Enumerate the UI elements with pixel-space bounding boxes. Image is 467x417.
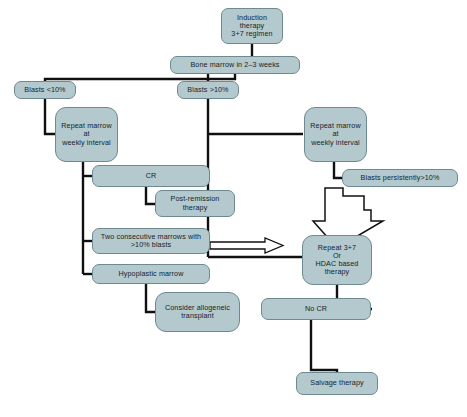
node-no-cr[interactable]: No CR xyxy=(261,298,371,320)
node-bone-marrow[interactable]: Bone marrow in 2–3 weeks xyxy=(170,56,300,74)
node-cr[interactable]: CR xyxy=(92,165,210,187)
node-blasts-low[interactable]: Blasts <10% xyxy=(14,81,76,99)
node-label-hypoplastic-marrow: Hypoplastic marrow xyxy=(119,270,184,278)
node-post-remission-therapy[interactable]: Post-remission therapy xyxy=(155,190,235,217)
node-hypoplastic-marrow[interactable]: Hypoplastic marrow xyxy=(92,264,210,284)
node-repeat-marrow-right[interactable]: Repeat marrow at weekly interval xyxy=(304,107,367,162)
node-label-blasts-persistently-high: Blasts persistently>10% xyxy=(361,174,440,182)
node-label-blasts-high: Blasts >10% xyxy=(187,86,228,94)
node-label-two-consecutive-marrows: Two consecutive marrows with >10% blasts xyxy=(101,233,201,249)
node-label-salvage-therapy: Salvage therapy xyxy=(310,379,363,387)
node-repeat-3-7-or-hdac[interactable]: Repeat 3+7 Or HDAC based therapy xyxy=(302,235,372,285)
node-repeat-marrow-left[interactable]: Repeat marrow at weekly interval xyxy=(55,107,118,162)
node-blasts-persistently-high[interactable]: Blasts persistently>10% xyxy=(342,169,458,187)
node-label-blasts-low: Blasts <10% xyxy=(24,86,65,94)
node-label-post-remission-therapy: Post-remission therapy xyxy=(171,195,220,211)
node-label-repeat-marrow-left: Repeat marrow at weekly interval xyxy=(61,122,111,146)
node-label-repeat-3-7-or-hdac: Repeat 3+7 Or HDAC based therapy xyxy=(316,244,359,276)
flowchart-canvas: Induction therapy 3+7 regimen Bone marro… xyxy=(0,0,467,417)
node-label-bone-marrow: Bone marrow in 2–3 weeks xyxy=(190,61,279,69)
node-two-consecutive-marrows[interactable]: Two consecutive marrows with >10% blasts xyxy=(92,228,210,254)
node-induction-therapy[interactable]: Induction therapy 3+7 regimen xyxy=(221,8,283,44)
hollow-arrow-two-marrows-to-repeat-3-7 xyxy=(210,238,283,253)
node-label-cr: CR xyxy=(146,172,157,180)
connector-no-cr-to-salvage xyxy=(311,320,337,373)
node-label-repeat-marrow-right: Repeat marrow at weekly interval xyxy=(310,122,360,146)
node-salvage-therapy[interactable]: Salvage therapy xyxy=(296,372,378,395)
node-label-consider-allogeneic-transplant: Consider allogeneic transplant xyxy=(165,304,230,320)
node-consider-allogeneic-transplant[interactable]: Consider allogeneic transplant xyxy=(155,292,240,332)
node-label-induction-therapy: Induction therapy 3+7 regimen xyxy=(231,14,272,38)
node-blasts-high[interactable]: Blasts >10% xyxy=(177,81,239,99)
node-label-no-cr: No CR xyxy=(305,305,327,313)
